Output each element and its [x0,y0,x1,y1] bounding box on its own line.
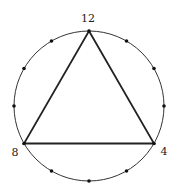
clock-circle [14,31,164,181]
label-4: 4 [161,145,168,158]
hour-dot-11 [50,39,54,43]
hour-dot-5 [125,169,129,173]
hour-dot-12 [87,29,91,33]
inscribed-triangle [24,31,154,144]
label-8: 8 [12,146,19,159]
hour-dot-8 [22,142,26,146]
clock-triangle-diagram: 12 4 8 [0,0,177,192]
hour-dots [12,29,166,183]
hour-dot-3 [162,104,166,108]
hour-dot-10 [22,67,26,71]
hour-dot-4 [152,142,156,146]
hour-dot-9 [12,104,16,108]
hour-dot-6 [87,179,91,183]
hour-dot-2 [152,67,156,71]
hour-dot-1 [125,39,129,43]
label-12: 12 [81,12,95,25]
hour-dot-7 [50,169,54,173]
